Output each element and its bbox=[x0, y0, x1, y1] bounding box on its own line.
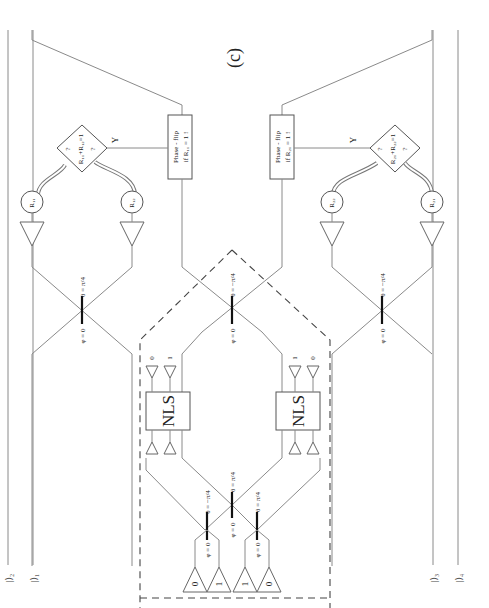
nls-box-right: NLS bbox=[276, 392, 320, 430]
source-0-triangle-icon bbox=[183, 567, 207, 592]
svg-text:1: 1 bbox=[291, 356, 299, 360]
svg-text:?: ? bbox=[401, 147, 409, 150]
svg-text:R₂₂: R₂₂ bbox=[328, 198, 336, 208]
svg-text:R₂₁: R₂₁ bbox=[428, 198, 436, 208]
svg-text:φ = 0: φ = 0 bbox=[79, 328, 87, 343]
output-wire-left bbox=[32, 30, 182, 115]
panel-label: (c) bbox=[224, 48, 245, 68]
svg-text:R₁₁: R₁₁ bbox=[28, 198, 36, 208]
svg-text:θ = −π/4: θ = −π/4 bbox=[229, 273, 237, 297]
source-2-triangle-icon bbox=[233, 567, 257, 592]
ket-4-label: |⟩₄ bbox=[454, 574, 464, 582]
svg-text:0: 0 bbox=[309, 356, 317, 360]
detector-r11-triangle-icon bbox=[20, 222, 44, 246]
nls-box-left: NLS bbox=[146, 392, 190, 430]
detector-r21: R₂₁ bbox=[421, 191, 443, 213]
phase-flip-2-line2: if R₂₁ = 1 ! bbox=[284, 132, 292, 163]
circuit-svg: Phase - flip if R₁₁ = 1 ! Phase - flip i… bbox=[0, 0, 489, 608]
phase-flip-1-line2: if R₁₁ = 1 ! bbox=[182, 132, 190, 163]
phase-flip-box-1: Phase - flip if R₁₁ = 1 ! bbox=[168, 115, 192, 179]
source-1-triangle-icon bbox=[207, 567, 231, 592]
svg-text:?: ? bbox=[64, 147, 72, 150]
optical-circuit-diagram: Phase - flip if R₁₁ = 1 ! Phase - flip i… bbox=[0, 0, 489, 608]
detector-r12: R₁₂ bbox=[121, 191, 143, 213]
output-wire-right bbox=[282, 30, 432, 115]
svg-text:θ = π/4: θ = π/4 bbox=[229, 472, 237, 492]
svg-text:1: 1 bbox=[214, 582, 224, 587]
detector-r11: R₁₁ bbox=[21, 191, 43, 213]
svg-text:0: 0 bbox=[148, 356, 156, 360]
detector-r22: R₂₂ bbox=[321, 191, 343, 213]
svg-text:R₂₁+R₂₂=1: R₂₁+R₂₂=1 bbox=[389, 133, 397, 164]
svg-text:R₁₂: R₁₂ bbox=[128, 198, 136, 208]
decision-2-yes-label: Y bbox=[348, 136, 358, 143]
ket-1-label: |⟩₁ bbox=[29, 574, 39, 582]
svg-text:0: 0 bbox=[190, 581, 200, 586]
svg-text:0: 0 bbox=[264, 581, 274, 586]
ket-3-label: |⟩₃ bbox=[429, 574, 439, 582]
svg-text:θ = −π/4: θ = −π/4 bbox=[204, 490, 212, 514]
phase-flip-2-line1: Phase - flip bbox=[274, 131, 282, 163]
detector-r21-triangle-icon bbox=[420, 222, 444, 246]
svg-text:?: ? bbox=[89, 147, 97, 150]
svg-text:θ = π/4: θ = π/4 bbox=[254, 492, 262, 512]
wire-pf1-down bbox=[182, 179, 262, 332]
svg-text:NLS: NLS bbox=[289, 395, 308, 427]
svg-text:φ = 0: φ = 0 bbox=[229, 522, 237, 537]
phase-flip-box-2: Phase - flip if R₂₁ = 1 ! bbox=[270, 115, 294, 179]
svg-text:φ = 0: φ = 0 bbox=[379, 328, 387, 343]
svg-text:θ = −π/4: θ = −π/4 bbox=[379, 273, 387, 297]
svg-text:R₁₁+R₁₂=1: R₁₁+R₁₂=1 bbox=[77, 133, 85, 164]
ket-2-label: |⟩₂ bbox=[4, 574, 14, 582]
svg-text:1: 1 bbox=[166, 356, 174, 360]
svg-text:?: ? bbox=[376, 147, 384, 150]
wire-pf2-down bbox=[202, 179, 282, 332]
source-3-triangle-icon bbox=[257, 567, 281, 592]
svg-text:φ = 0: φ = 0 bbox=[204, 542, 212, 557]
detector-r12-triangle-icon bbox=[120, 222, 144, 246]
decision-1-yes-label: Y bbox=[110, 136, 120, 143]
detector-r22-triangle-icon bbox=[320, 222, 344, 246]
phase-flip-1-line1: Phase - flip bbox=[172, 131, 180, 163]
svg-text:φ = 0: φ = 0 bbox=[254, 542, 262, 557]
svg-text:φ = 0: φ = 0 bbox=[229, 328, 237, 343]
svg-text:θ = π/4: θ = π/4 bbox=[79, 277, 87, 297]
svg-text:NLS: NLS bbox=[159, 395, 178, 427]
svg-text:1: 1 bbox=[240, 582, 250, 587]
